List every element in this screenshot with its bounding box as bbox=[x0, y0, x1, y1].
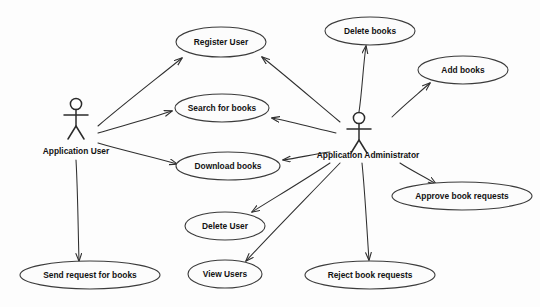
actor-label: Application User bbox=[43, 146, 110, 156]
actor-application-user[interactable]: Application User bbox=[43, 98, 110, 156]
use-case-label: View Users bbox=[203, 269, 248, 279]
association-admin-to-search-for-books bbox=[272, 118, 336, 133]
association-admin-to-delete-books bbox=[359, 46, 366, 112]
use-case-label: Approve book requests bbox=[415, 191, 509, 201]
use-case-label: Search for books bbox=[188, 103, 257, 113]
use-case-approve-book-requests[interactable]: Approve book requests bbox=[392, 182, 532, 210]
use-case-delete-user[interactable]: Delete User bbox=[185, 212, 265, 240]
use-case-label: Add books bbox=[441, 65, 485, 75]
use-case-label: Reject book requests bbox=[328, 270, 413, 280]
actor-label: Application Administrator bbox=[317, 150, 420, 160]
use-case-label: Register User bbox=[194, 37, 249, 47]
use-case-register-user[interactable]: Register User bbox=[176, 27, 266, 57]
use-case-delete-books[interactable]: Delete books bbox=[325, 17, 415, 45]
association-admin-to-register-user bbox=[262, 57, 340, 122]
actor-head-icon bbox=[353, 112, 364, 123]
use-case-send-request-for-books[interactable]: Send request for books bbox=[20, 261, 160, 289]
actor-application-administrator[interactable]: Application Administrator bbox=[317, 112, 420, 160]
uml-diagram-svg: Register UserSearch for booksDownload bo… bbox=[0, 0, 540, 307]
use-case-label: Delete User bbox=[202, 221, 249, 231]
use-case-view-users[interactable]: View Users bbox=[188, 260, 262, 288]
association-user-to-register-user bbox=[98, 58, 182, 126]
use-case-diagram-canvas: Register UserSearch for booksDownload bo… bbox=[0, 0, 540, 307]
actor-head-icon bbox=[70, 98, 81, 109]
use-case-download-books[interactable]: Download books bbox=[176, 152, 280, 180]
use-case-reject-book-requests[interactable]: Reject book requests bbox=[305, 261, 435, 289]
association-admin-to-add-books bbox=[392, 83, 430, 117]
use-case-label: Delete books bbox=[344, 26, 396, 36]
use-case-add-books[interactable]: Add books bbox=[418, 56, 508, 84]
actor-legs bbox=[68, 126, 84, 139]
association-admin-to-view-users bbox=[246, 163, 340, 261]
use-case-label: Send request for books bbox=[43, 270, 137, 280]
use-case-label: Download books bbox=[195, 161, 262, 171]
association-admin-to-approve-requests bbox=[400, 163, 436, 184]
association-user-to-search-for-books bbox=[98, 111, 172, 133]
association-admin-to-reject-requests bbox=[362, 163, 369, 260]
use-case-search-for-books[interactable]: Search for books bbox=[175, 94, 269, 122]
association-user-to-send-request bbox=[76, 160, 79, 261]
association-user-to-download-books bbox=[98, 143, 177, 164]
